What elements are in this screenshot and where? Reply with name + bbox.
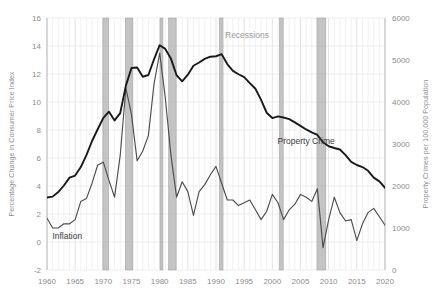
x-tick-label: 1960 (38, 277, 56, 286)
y-tick-label-left: -2 (34, 266, 42, 275)
y-tick-label-right: 4000 (392, 98, 410, 107)
y-axis-left-title: Percentage Change in Consumer Price Inde… (8, 71, 16, 216)
chart-background (0, 0, 438, 298)
x-tick-label: 2020 (376, 277, 394, 286)
x-tick-label: 1965 (66, 277, 84, 286)
y-tick-label-right: 6000 (392, 14, 410, 23)
annotation-property-crime: Property Crime (278, 136, 335, 146)
y-tick-label-left: 0 (37, 238, 42, 247)
y-tick-label-right: 1000 (392, 224, 410, 233)
y-tick-label-left: 14 (32, 42, 41, 51)
x-tick-label: 2010 (320, 277, 338, 286)
y-tick-label-left: 2 (37, 210, 42, 219)
y-tick-label-right: 0 (392, 266, 397, 275)
y-tick-label-left: 10 (32, 98, 41, 107)
y-tick-label-right: 5000 (392, 56, 410, 65)
y-tick-label-right: 3000 (392, 140, 410, 149)
x-tick-label: 2015 (348, 277, 366, 286)
recession-band (125, 18, 132, 270)
y-tick-label-right: 2000 (392, 182, 410, 191)
x-tick-label: 1975 (123, 277, 141, 286)
x-tick-label: 1995 (235, 277, 253, 286)
dual-axis-line-chart: 1960196519701975198019851990199520002005… (0, 0, 438, 298)
y-tick-label-left: 16 (32, 14, 41, 23)
y-axis-right-title: Property Crimes per 100,000 Population (422, 80, 430, 209)
x-tick-label: 1985 (179, 277, 197, 286)
y-tick-label-left: 12 (32, 70, 41, 79)
y-tick-label-left: 8 (37, 126, 42, 135)
x-tick-label: 1990 (207, 277, 225, 286)
annotation-inflation: Inflation (52, 231, 82, 241)
x-tick-label: 2005 (292, 277, 310, 286)
x-tick-label: 1970 (94, 277, 112, 286)
y-tick-label-left: 6 (37, 154, 42, 163)
chart-container: 1960196519701975198019851990199520002005… (0, 0, 438, 298)
x-tick-label: 1980 (151, 277, 169, 286)
y-tick-label-left: 4 (37, 182, 42, 191)
x-tick-label: 2000 (263, 277, 281, 286)
annotation-recessions: Recessions (225, 30, 269, 40)
recession-band (103, 18, 109, 270)
